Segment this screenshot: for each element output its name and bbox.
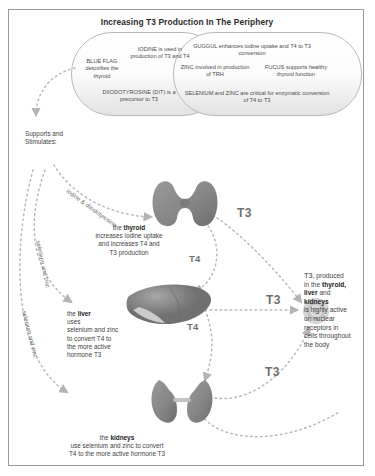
receptor-desc-and: and — [318, 289, 331, 296]
liver-caption-bold: liver — [78, 310, 91, 317]
kidneys-caption: the kidneys use selenium and zinc to con… — [17, 434, 217, 459]
kidneys-caption-prefix: the — [100, 434, 111, 441]
receptor-desc-t3: T3 — [304, 271, 313, 280]
receptor-desc-thyroid: thyroid, — [322, 281, 346, 288]
receptor-desc-liver: liver — [304, 289, 318, 296]
hormone-label-t3-kidneys: T3 — [265, 365, 280, 379]
hormone-label-t3-liver: T3 — [266, 293, 281, 307]
kidneys-caption-bold: kidneys — [110, 434, 134, 441]
thyroid-caption: the thyroid increases iodine uptake and … — [64, 224, 194, 257]
liver-caption-body: uses selenium and zinc to convert T4 to … — [67, 318, 177, 359]
kidneys-caption-body: use selenium and zinc to convert T4 to t… — [17, 442, 217, 458]
thyroid-caption-body: increases iodine uptake and increases T4… — [64, 232, 194, 257]
receptor-description: T3, produced in the thyroid, liver and k… — [304, 272, 374, 349]
receptor-desc-kidneys: kidneys — [304, 298, 329, 305]
thyroid-illustration — [153, 181, 218, 226]
hormone-label-t4-liver: T4 — [187, 321, 199, 332]
hormone-label-t3-thyroid: T3 — [237, 206, 252, 220]
liver-caption-prefix: the — [67, 310, 78, 317]
receptor-desc-inthe: in the — [304, 281, 322, 288]
thyroid-caption-bold: thyroid — [124, 224, 146, 231]
supports-stimulates-label: Supports and Stimulates: — [25, 130, 95, 146]
receptor-desc-produced: , produced — [313, 272, 344, 279]
liver-caption: the liver uses selenium and zinc to conv… — [67, 310, 177, 359]
diagram-frame: Increasing T3 Production In The Peripher… — [8, 9, 364, 466]
hormone-label-t4-thyroid: T4 — [189, 253, 201, 264]
receptor-desc-body: is highly active on nuclear receptors in… — [304, 306, 374, 349]
kidneys-illustration — [152, 380, 213, 423]
thyroid-caption-prefix: the — [113, 224, 124, 231]
